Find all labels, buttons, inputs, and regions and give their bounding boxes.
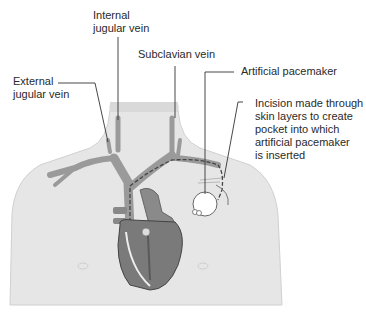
neck [110,102,178,112]
label-subclavian-vein: Subclavian vein [138,48,215,61]
label-artificial-pacemaker: Artificial pacemaker [241,65,337,78]
label-incision: Incision made through skin layers to cre… [255,97,363,162]
label-external-jugular-vein: External jugular vein [13,75,69,101]
label-internal-jugular-vein: Internal jugular vein [93,9,149,35]
